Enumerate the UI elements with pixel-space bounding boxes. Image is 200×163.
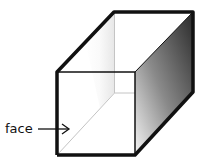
prism-diagram: face: [0, 0, 200, 163]
face-label: face: [5, 121, 33, 136]
hidden-edge-diagonal: [58, 93, 115, 154]
